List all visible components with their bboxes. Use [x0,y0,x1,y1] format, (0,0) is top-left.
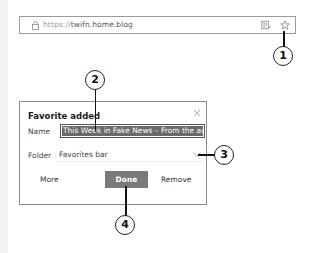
dialog-title: Favorite added [28,111,100,121]
name-input[interactable]: This Week in Fake News – From the autho [60,124,205,138]
url-protocol: https:// [43,20,71,29]
callout-2-badge: 2 [85,70,105,90]
callout-1-badge: 1 [273,46,293,66]
folder-label: Folder [28,151,51,160]
callout-3-leader [198,154,215,156]
reading-view-icon[interactable] [261,20,271,30]
callout-1-leader [283,31,285,47]
folder-value: Favorites bar [59,150,108,159]
folder-select[interactable]: Favorites bar [56,148,205,162]
more-button[interactable]: More [40,175,59,184]
address-bar[interactable]: https://twifn.home.blog [19,16,296,34]
url-text[interactable]: https://twifn.home.blog [43,20,133,29]
done-button[interactable]: Done [105,171,148,188]
callout-4-badge: 4 [115,215,135,235]
page-left-edge [0,0,8,253]
url-domain: twifn.home.blog [71,20,133,29]
callout-4-leader [125,186,127,216]
remove-button[interactable]: Remove [161,175,191,184]
lock-icon [32,21,39,30]
callout-2-leader [95,89,97,131]
close-icon[interactable] [193,109,201,117]
star-icon[interactable] [280,20,290,30]
favorite-added-dialog: Favorite added Name This Week in Fake Ne… [19,101,207,205]
callout-3-badge: 3 [214,145,234,165]
name-label: Name [28,127,50,136]
name-input-value: This Week in Fake News – From the autho [62,126,203,136]
